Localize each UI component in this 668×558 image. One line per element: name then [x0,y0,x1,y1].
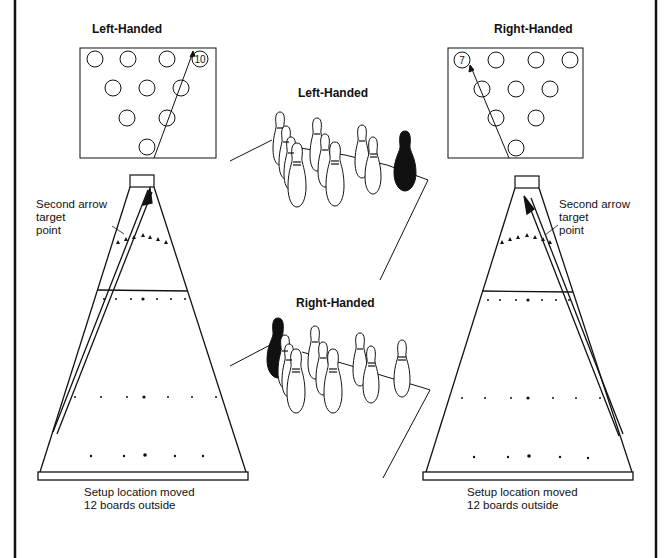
right-panel-title: Right-Handed [494,22,573,36]
right-annotation: Second arrow target point [559,198,630,237]
left-caption: Setup location moved 12 boards outside [84,486,195,512]
center-bottom-pin-setup [230,318,430,478]
right-target-pin-number: 7 [459,55,465,66]
right-caption: Setup location moved 12 boards outside [467,486,578,512]
left-target-arrows [116,233,168,244]
left-panel-title: Left-Handed [92,22,162,36]
left-target-pin-number: 10 [194,54,206,65]
diagram-canvas: 10 7 [0,0,668,558]
center-top-title: Left-Handed [298,86,368,100]
right-pin-deck-diagram [448,48,583,158]
left-lane-dots [74,297,217,457]
center-top-pin-setup [230,112,428,280]
left-annotation: Second arrow target point [36,198,107,237]
center-bottom-title: Right-Handed [296,296,375,310]
